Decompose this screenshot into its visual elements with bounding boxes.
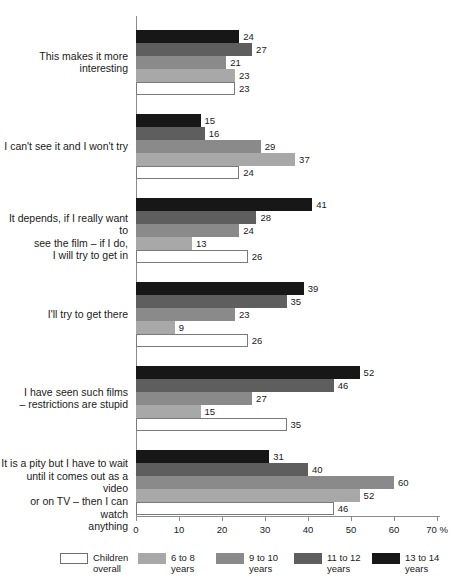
bar-value-label: 41 [316, 199, 327, 210]
bar[interactable] [136, 476, 394, 489]
bar-chart: 010203040506070 % 2427212323151629372441… [0, 0, 464, 583]
bar-row: 31 [136, 450, 437, 463]
bar-value-label: 13 [196, 238, 207, 249]
bar[interactable] [136, 237, 192, 250]
bar-row: 24 [136, 166, 437, 179]
x-tick-label: 60 [389, 524, 400, 535]
x-tick-label: 20 [217, 524, 228, 535]
category-label-text: It depends, if I really want to see the … [0, 212, 128, 262]
legend-item[interactable]: 11 to 12 years [294, 552, 361, 574]
bar-row: 28 [136, 211, 437, 224]
bar[interactable] [136, 321, 175, 334]
bar-row: 46 [136, 379, 437, 392]
category-label: This makes it more interesting [0, 50, 136, 75]
bar-value-label: 24 [243, 31, 254, 42]
plot-area: 010203040506070 % 2427212323151629372441… [136, 16, 440, 516]
bar-value-label: 52 [364, 490, 375, 501]
legend-item[interactable]: Children overall [60, 552, 128, 574]
bar-row: 27 [136, 43, 437, 56]
bar[interactable] [136, 250, 248, 263]
bar-value-label: 26 [252, 251, 263, 262]
bar-value-label: 37 [299, 154, 310, 165]
bar[interactable] [136, 140, 261, 153]
bar[interactable] [136, 82, 235, 95]
category-label-text: I have seen such films – restrictions ar… [0, 386, 128, 411]
bar[interactable] [136, 463, 308, 476]
bar[interactable] [136, 224, 239, 237]
bar-row: 52 [136, 489, 437, 502]
x-tick-mark [179, 516, 180, 521]
bar-row: 60 [136, 476, 437, 489]
bar[interactable] [136, 308, 235, 321]
category-label-text: It is a pity but I have to wait until it… [0, 457, 128, 533]
bar[interactable] [136, 450, 269, 463]
category-label-text: This makes it more interesting [0, 50, 128, 75]
bar[interactable] [136, 489, 360, 502]
bar-value-label: 15 [205, 115, 216, 126]
bar[interactable] [136, 211, 256, 224]
bar-row: 41 [136, 198, 437, 211]
bar[interactable] [136, 43, 252, 56]
bar-group: 3140605246 [136, 450, 440, 515]
x-tick-label: 50 [346, 524, 357, 535]
bar-row: 15 [136, 114, 437, 127]
bar-row: 23 [136, 69, 437, 82]
bar[interactable] [136, 114, 201, 127]
bar[interactable] [136, 334, 248, 347]
bar-group: 1516293724 [136, 114, 440, 179]
bar-value-label: 35 [291, 296, 302, 307]
bar[interactable] [136, 30, 239, 43]
bar-row: 35 [136, 418, 437, 431]
bar-value-label: 27 [256, 393, 267, 404]
legend-item[interactable]: 9 to 10 years [216, 552, 278, 574]
x-tick-label: 40 [303, 524, 314, 535]
bar[interactable] [136, 153, 295, 166]
x-tick-label: 30 [260, 524, 271, 535]
bar[interactable] [136, 56, 226, 69]
bar-group: 2427212323 [136, 30, 440, 95]
bar-row: 24 [136, 224, 437, 237]
bar-row: 21 [136, 56, 437, 69]
x-tick-mark [222, 516, 223, 521]
bar-value-label: 35 [291, 419, 302, 430]
bar[interactable] [136, 282, 304, 295]
bar[interactable] [136, 405, 201, 418]
bar-value-label: 15 [205, 406, 216, 417]
legend-swatch [60, 553, 88, 564]
bar-row: 13 [136, 237, 437, 250]
bar[interactable] [136, 379, 334, 392]
legend-item[interactable]: 13 to 14 years [372, 552, 439, 574]
category-label: It is a pity but I have to wait until it… [0, 457, 136, 533]
legend-item[interactable]: 6 to 8 years [138, 552, 195, 574]
bar-value-label: 23 [239, 70, 250, 81]
bar[interactable] [136, 295, 287, 308]
bar-value-label: 23 [239, 309, 250, 320]
bar-value-label: 39 [308, 283, 319, 294]
legend-label: Children overall [93, 552, 128, 574]
bar[interactable] [136, 392, 252, 405]
bar-value-label: 23 [239, 83, 250, 94]
bar[interactable] [136, 418, 287, 431]
bar-value-label: 21 [230, 57, 241, 68]
category-label: I'll try to get there [0, 308, 136, 321]
x-tick-mark [437, 516, 438, 521]
bar[interactable] [136, 127, 205, 140]
bar-row: 15 [136, 405, 437, 418]
legend: Children overall6 to 8 years9 to 10 year… [60, 552, 460, 582]
bar[interactable] [136, 198, 312, 211]
bar-row: 37 [136, 153, 437, 166]
bar-row: 27 [136, 392, 437, 405]
bar-group: 5246271535 [136, 366, 440, 431]
bar[interactable] [136, 69, 235, 82]
category-label: It depends, if I really want to see the … [0, 212, 136, 262]
bar[interactable] [136, 166, 239, 179]
bar-row: 24 [136, 30, 437, 43]
x-tick-mark [351, 516, 352, 521]
bar-row: 23 [136, 82, 437, 95]
legend-swatch [138, 553, 166, 564]
bar-value-label: 9 [179, 322, 184, 333]
bar[interactable] [136, 502, 334, 515]
category-label-text: I'll try to get there [0, 308, 128, 321]
x-tick-mark [394, 516, 395, 521]
bar[interactable] [136, 366, 360, 379]
